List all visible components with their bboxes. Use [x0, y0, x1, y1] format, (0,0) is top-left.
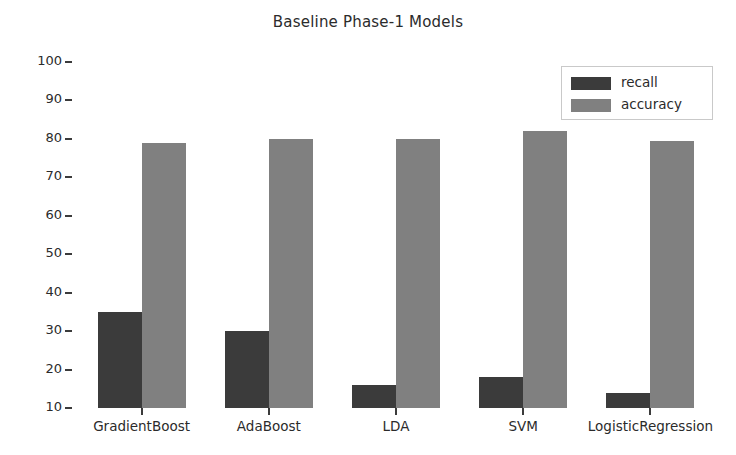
y-axis-tick-mark [65, 369, 72, 371]
y-axis-tick-label: 40 [45, 284, 62, 299]
legend-swatch-recall [571, 77, 611, 90]
y-axis-tick-mark [65, 138, 72, 140]
y-axis-tick-label: 80 [45, 130, 62, 145]
y-axis-tick-mark [65, 407, 72, 409]
x-axis-tick-mark [141, 408, 143, 415]
x-axis-tick-label: LDA [383, 418, 410, 434]
bar-recall-lda [352, 385, 396, 408]
y-axis-tick-mark [65, 99, 72, 101]
y-axis-tick-mark [65, 61, 72, 63]
y-axis-tick-mark [65, 292, 72, 294]
x-axis-tick-mark [522, 408, 524, 415]
y-axis-tick-label: 100 [37, 53, 62, 68]
y-axis-tick-label: 10 [45, 399, 62, 414]
y-axis-tick-mark [65, 215, 72, 217]
bar-accuracy-adaboost [269, 139, 313, 408]
x-axis-tick-label: LogisticRegression [588, 418, 713, 434]
chart-page: Baseline Phase-1 Models 1009080706050403… [0, 0, 736, 455]
bar-accuracy-logisticregression [650, 141, 694, 408]
x-axis-tick-mark [649, 408, 651, 415]
legend-label-recall: recall [621, 74, 658, 90]
y-axis-tick-mark [65, 330, 72, 332]
bar-accuracy-lda [396, 139, 440, 408]
bar-recall-svm [479, 377, 523, 408]
legend-swatch-accuracy [571, 99, 611, 112]
x-axis-tick-label: SVM [508, 418, 537, 434]
y-axis-tick-mark [65, 253, 72, 255]
y-axis-tick-label: 20 [45, 361, 62, 376]
bar-recall-gradientboost [98, 312, 142, 408]
y-axis-tick-label: 30 [45, 322, 62, 337]
bar-accuracy-gradientboost [142, 143, 186, 408]
legend-label-accuracy: accuracy [621, 96, 682, 112]
x-axis-tick-label: GradientBoost [93, 418, 190, 434]
y-axis-tick-label: 70 [45, 168, 62, 183]
bar-accuracy-svm [523, 131, 567, 408]
chart-legend: recallaccuracy [561, 66, 713, 120]
chart-title: Baseline Phase-1 Models [0, 13, 736, 31]
x-axis-tick-mark [395, 408, 397, 415]
y-axis-tick-label: 90 [45, 91, 62, 106]
y-axis-tick-label: 50 [45, 245, 62, 260]
bar-recall-logisticregression [606, 393, 650, 408]
bar-recall-adaboost [225, 331, 269, 408]
y-axis-tick-label: 60 [45, 207, 62, 222]
x-axis-tick-mark [268, 408, 270, 415]
y-axis-tick-mark [65, 176, 72, 178]
x-axis-tick-label: AdaBoost [237, 418, 301, 434]
